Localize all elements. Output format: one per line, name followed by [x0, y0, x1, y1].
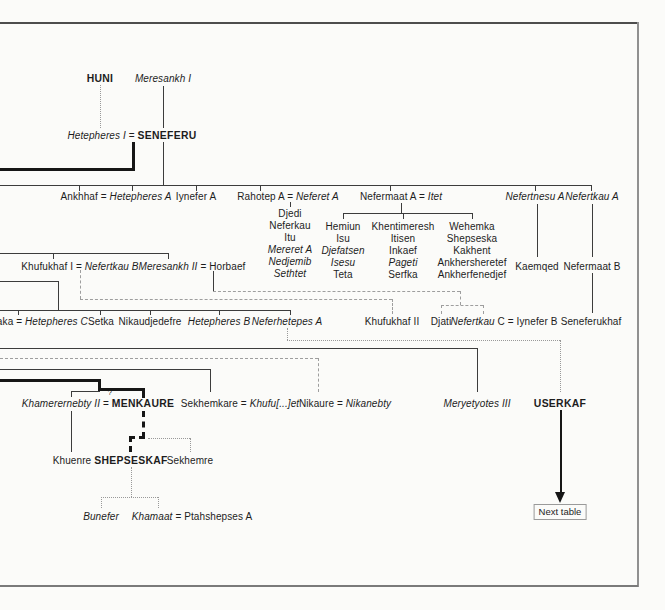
connector-solid-line: [150, 310, 151, 315]
person-huni: HUNI: [87, 73, 114, 84]
connector-solid-line: [71, 411, 72, 452]
connector-dot-line: [100, 85, 101, 128]
connector-solid-line: [343, 213, 472, 214]
connector-thick-line: [132, 142, 135, 171]
person-pageti: Pageti: [389, 257, 418, 268]
connector-solid-line: [100, 310, 101, 315]
person-meresankh-ii-horbaef: Meresankh II = Horbaef: [139, 261, 246, 272]
connector-solid-line: [0, 348, 477, 349]
person-inkaef: Inkaef: [389, 245, 417, 256]
connector-dash-line: [441, 305, 442, 314]
connector-thick-line: [0, 168, 135, 171]
person-khufukhaf-ii: Khufukhaf II: [365, 316, 420, 327]
person-kakhent: Kakhent: [453, 245, 490, 256]
person-nedjemib: Nedjemib: [268, 256, 311, 267]
person-nefermaat-a-itet: Nefermaat A = Itet: [360, 191, 442, 202]
person-shepseska: Shepseska: [447, 233, 497, 244]
person-ankherfenedjef: Ankherfenedjef: [438, 269, 507, 280]
person-wehemka: Wehemka: [449, 221, 495, 232]
person-seneferukhaf: Seneferukhaf: [561, 316, 622, 327]
connector-solid-line: [53, 253, 54, 259]
connector-dash-line: [392, 299, 393, 314]
connector-frame-line: [637, 22, 639, 587]
person-neferkau: Neferkau: [269, 220, 310, 231]
connector-solid-line: [477, 348, 478, 392]
person-shepseskaf: SHEPSESKAF: [94, 455, 167, 466]
uncertain-marriage-mark: ?: [108, 387, 112, 398]
next-table-label: Next table: [539, 506, 582, 517]
person-khentimeresh: Khentimeresh: [372, 221, 435, 232]
connector-dash-line: [80, 270, 81, 299]
person-nefertkau-a: Nefertkau A: [565, 191, 619, 202]
connector-solid-line: [18, 310, 19, 315]
connector-dash-line: [441, 305, 483, 306]
person-hemiun: Hemiun: [325, 221, 360, 232]
person-bunefer: Bunefer: [83, 511, 119, 522]
connector-solid-line: [290, 202, 291, 207]
person-meresankh-i: Meresankh I: [135, 73, 191, 84]
connector-dot-line: [560, 340, 561, 392]
connector-solid-line: [210, 369, 211, 392]
connector-solid-line: [58, 281, 59, 310]
person-hetepheres-i-seneferu: Hetepheres I = SENEFERU: [67, 130, 196, 141]
connector-dash-line: [483, 305, 484, 314]
connector-dot-line: [148, 438, 190, 439]
connector-tdash-line: [129, 436, 132, 452]
person-djefatsen: Djefatsen: [321, 245, 364, 256]
connector-solid-line: [0, 281, 58, 282]
connector-dot-line: [131, 467, 132, 497]
connector-solid-line: [0, 369, 210, 370]
connector-solid-line: [71, 391, 72, 397]
person-mereret-a: Mereret A: [268, 244, 312, 255]
person-serfka: Serfka: [388, 269, 418, 280]
connector-arrow-line: [560, 410, 562, 494]
person-djati: Djati: [431, 316, 452, 327]
person-setka: Setka: [88, 316, 114, 327]
connector-tdash-line: [142, 411, 145, 438]
connector-solid-line: [592, 204, 593, 257]
person-sekhemkare-khufuet: Sekhemkare = Khufu[...]et: [181, 398, 299, 409]
person-khufukhaf-i-nefertkau-b: Khufukhaf I = Nefertkau B: [21, 261, 138, 272]
connector-solid-line: [0, 185, 591, 186]
person-khuenre: Khuenre: [53, 455, 92, 466]
connector-dash-line: [213, 291, 460, 292]
person-djedi: Djedi: [278, 208, 301, 219]
connector-dash-line: [80, 299, 392, 300]
person-nefermaat-b: Nefermaat B: [563, 261, 620, 272]
person-nikaure-nikanebty: Nikaure = Nikanebty: [299, 398, 391, 409]
person-rahotep-a-neferet-a: Rahotep A = Neferet A: [237, 191, 339, 202]
connector-thick-line: [0, 379, 101, 382]
royal-genealogy-diagram: Next table HUNIMeresankh IHetepheres I =…: [0, 0, 665, 610]
person-itisen: Itisen: [391, 233, 416, 244]
person-ankhhaf-hetepheres-a: Ankhhaf = Hetepheres A: [60, 191, 171, 202]
connector-dash-line: [0, 358, 318, 359]
connector-thick-line: [142, 388, 145, 398]
person-nikaudjedefre: Nikaudjedefre: [118, 316, 181, 327]
connector-solid-line: [401, 203, 402, 213]
connector-frame-line: [0, 585, 638, 587]
connector-dash-line: [460, 291, 461, 305]
connector-solid-line: [290, 310, 291, 315]
connector-solid-line: [343, 213, 344, 219]
connector-solid-line: [213, 271, 214, 291]
connector-dash-line: [318, 358, 319, 392]
connector-solid-line: [219, 310, 220, 315]
person-hetepheres-b: Hetepheres B: [188, 316, 250, 327]
connector-solid-line: [71, 391, 100, 392]
connector-solid-line: [0, 253, 168, 254]
person-teta: Teta: [333, 269, 352, 280]
person-userkaf: USERKAF: [534, 398, 586, 409]
person-baka-hetepheres-c: Baka = Hetepheres C: [0, 316, 88, 327]
connector-thick-line: [98, 388, 145, 391]
person-nefertkau-c-iynefer-b: Nefertkau C = Iynefer B: [450, 316, 557, 327]
connector-solid-line: [403, 213, 404, 219]
connector-solid-line: [472, 213, 473, 219]
connector-solid-line: [163, 86, 164, 128]
person-khamaat-ptahshepses-a: Khamaat = Ptahshepses A: [132, 511, 252, 522]
connector-solid-line: [163, 142, 164, 185]
person-sekhemre: Sekhemre: [167, 455, 213, 466]
person-kaemqed: Kaemqed: [515, 261, 559, 272]
connector-dot-line: [287, 328, 288, 340]
person-meryetyotes-iii: Meryetyotes III: [443, 398, 510, 409]
connector-dot-line: [101, 497, 102, 508]
